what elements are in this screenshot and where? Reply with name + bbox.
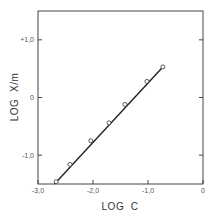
y-tick-label: 0 [30,94,34,101]
plot-frame [38,11,203,184]
data-point-marker [107,121,111,125]
y-axis-title: LOG X/m [9,73,20,121]
x-tick-label: -3,0 [32,187,44,194]
chart: -3,0-2,0-1,00 +1,00-1,0 LOG C LOG X/m [0,0,213,222]
y-axis-ticks: +1,00-1,0 [20,36,203,158]
x-tick-label: 0 [201,187,205,194]
x-tick-label: -2,0 [87,187,99,194]
data-point-marker [54,180,58,184]
data-point-marker [161,65,165,69]
x-axis-title: LOG C [102,201,139,212]
data-point-marker [68,162,72,166]
x-tick-label: -1,0 [142,187,154,194]
data-point-marker [89,139,93,143]
data-point-marker [145,79,149,83]
data-point-marker [123,102,127,106]
y-tick-label: +1,0 [20,36,34,43]
data-points [54,65,165,184]
y-tick-label: -1,0 [22,152,34,159]
